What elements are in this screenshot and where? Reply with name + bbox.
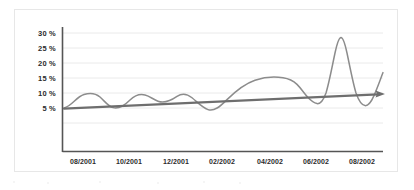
trend-line <box>64 94 378 108</box>
ytick-label-15: 15 % <box>22 74 56 83</box>
ytick-label-5: 5 % <box>22 104 56 113</box>
ytick-label-25: 25 % <box>22 44 56 53</box>
chart-figure: 30 % 25 % 20 % 15 % 10 % 5 % 08/2001 10/… <box>0 0 414 190</box>
xtick-label-08-2001: 08/2001 <box>59 158 107 165</box>
xtick-label-12-2001: 12/2001 <box>152 158 200 165</box>
ytick-label-30: 30 % <box>22 29 56 38</box>
ytick-label-10: 10 % <box>22 89 56 98</box>
scan-artifact <box>8 180 268 185</box>
xtick-label-06-2002: 06/2002 <box>292 158 340 165</box>
xtick-label-08-2002: 08/2002 <box>338 158 386 165</box>
xtick-label-02-2002: 02/2002 <box>198 158 246 165</box>
xtick-label-10-2001: 10/2001 <box>105 158 153 165</box>
gridlines <box>63 33 383 123</box>
ytick-label-20: 20 % <box>22 59 56 68</box>
xtick-label-04-2002: 04/2002 <box>246 158 294 165</box>
